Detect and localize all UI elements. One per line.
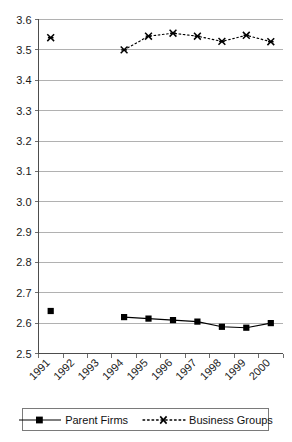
data-point-marker bbox=[267, 38, 274, 45]
x-tick-label: 1998 bbox=[198, 356, 224, 382]
x-tick-label: 1994 bbox=[100, 356, 126, 382]
y-axis-tick-labels: 2.52.62.72.82.93.03.13.23.33.43.53.6 bbox=[16, 14, 31, 360]
x-tick-label: 1997 bbox=[173, 356, 199, 382]
y-tick-label: 2.9 bbox=[16, 226, 31, 238]
axis-tick-marks bbox=[35, 20, 283, 358]
data-point-marker bbox=[219, 38, 226, 45]
y-tick-label: 3.2 bbox=[16, 135, 31, 147]
data-series-group bbox=[47, 30, 274, 331]
data-point-marker bbox=[121, 314, 127, 320]
legend-label-business-groups: Business Groups bbox=[189, 414, 273, 426]
legend-sample-parent-firms bbox=[18, 413, 62, 427]
y-tick-label: 3.3 bbox=[16, 105, 31, 117]
chart-legend: Parent Firms Business Groups bbox=[22, 408, 269, 431]
legend-entry-parent-firms: Parent Firms bbox=[18, 409, 128, 430]
x-tick-label: 1999 bbox=[222, 356, 248, 382]
data-point-marker bbox=[243, 325, 249, 331]
data-point-marker bbox=[48, 308, 54, 314]
chart-plot-area: 2.52.62.72.82.93.03.13.23.33.43.53.6 199… bbox=[0, 0, 292, 442]
data-point-marker bbox=[145, 33, 152, 40]
grid-lines bbox=[39, 20, 284, 324]
y-tick-label: 3.0 bbox=[16, 196, 31, 208]
y-tick-label: 3.6 bbox=[16, 14, 31, 26]
x-tick-label: 1993 bbox=[75, 356, 101, 382]
y-tick-label: 3.5 bbox=[16, 44, 31, 56]
y-tick-label: 2.6 bbox=[16, 317, 31, 329]
legend-label-parent-firms: Parent Firms bbox=[65, 414, 128, 426]
data-point-marker bbox=[170, 317, 176, 323]
x-tick-label: 1996 bbox=[149, 356, 175, 382]
x-tick-label: 1992 bbox=[51, 356, 77, 382]
data-point-marker bbox=[145, 316, 151, 322]
legend-sample-business-groups bbox=[142, 413, 186, 427]
data-point-marker bbox=[194, 319, 200, 325]
x-tick-label: 2000 bbox=[246, 356, 272, 382]
data-point-marker bbox=[121, 47, 128, 54]
data-point-marker bbox=[268, 320, 274, 326]
data-point-marker bbox=[219, 324, 225, 330]
data-point-marker bbox=[243, 32, 250, 39]
x-tick-label: 1995 bbox=[124, 356, 150, 382]
data-point-marker bbox=[170, 30, 177, 37]
y-tick-label: 2.5 bbox=[16, 348, 31, 360]
x-tick-label: 1991 bbox=[26, 356, 52, 382]
y-tick-label: 2.8 bbox=[16, 256, 31, 268]
data-point-marker bbox=[47, 34, 54, 41]
y-tick-label: 3.1 bbox=[16, 165, 31, 177]
x-axis-tick-labels: 1991199219931994199519961997199819992000 bbox=[26, 356, 272, 382]
y-tick-label: 3.4 bbox=[16, 74, 31, 86]
data-point-marker bbox=[194, 33, 201, 40]
line-chart: 2.52.62.72.82.93.03.13.23.33.43.53.6 199… bbox=[0, 0, 292, 442]
legend-entry-business-groups: Business Groups bbox=[142, 409, 273, 430]
y-tick-label: 2.7 bbox=[16, 287, 31, 299]
